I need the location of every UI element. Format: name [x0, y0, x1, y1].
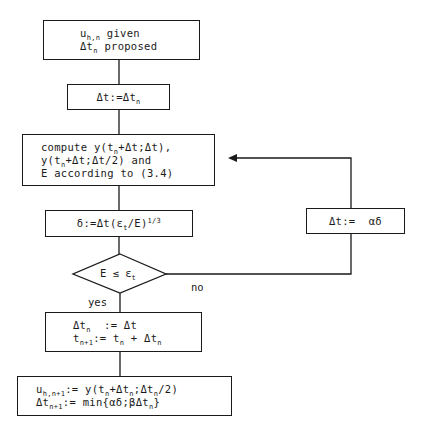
node-retry-text: Δt:= αδ	[329, 215, 382, 228]
decision-condition: E ≤ εt	[100, 267, 136, 279]
node-compute-line-2: y(tn+Δt;Δt/2) and	[41, 154, 214, 167]
yes-label: yes	[88, 296, 107, 308]
node-update-line-2: Δtn+1:= min{αδ;βΔtn}	[36, 396, 231, 409]
node-start-line-2: Δtn proposed	[80, 40, 199, 53]
node-init-dt: Δt:=Δtn	[67, 84, 170, 110]
node-init-dt-text: Δt:=Δtn	[96, 91, 140, 104]
node-update: uh,n+1:= y(tn+Δtn;Δtn/2) Δtn+1:= min{αδ;…	[17, 376, 232, 416]
arrowhead-icon	[228, 154, 237, 162]
node-compute-line-3: E according to (3.4)	[41, 167, 214, 180]
node-accept-line-1: Δtn := Δt	[73, 319, 201, 332]
node-accept: Δtn := Δt tn+1:= tn + Δtn	[45, 312, 202, 352]
node-start: uh,n given Δtn proposed	[43, 20, 200, 60]
edge-retry-compute	[230, 158, 351, 208]
node-retry: Δt:= αδ	[306, 208, 405, 234]
node-accept-line-2: tn+1:= tn + Δtn	[73, 332, 201, 345]
node-start-line-1: uh,n given	[80, 27, 199, 40]
edge-decision-retry	[166, 234, 351, 274]
node-delta: δ:=Δt(εt/E)1/3	[45, 210, 193, 237]
node-delta-text: δ:=Δt(εt/E)1/3	[77, 217, 161, 230]
no-label: no	[191, 281, 204, 293]
flowchart-canvas: uh,n given Δtn proposed Δt:=Δtn compute …	[0, 0, 425, 434]
node-compute: compute y(tn+Δt;Δt), y(tn+Δt;Δt/2) and E…	[22, 134, 215, 186]
node-update-line-1: uh,n+1:= y(tn+Δtn;Δtn/2)	[36, 383, 231, 396]
node-compute-line-1: compute y(tn+Δt;Δt),	[41, 141, 214, 154]
